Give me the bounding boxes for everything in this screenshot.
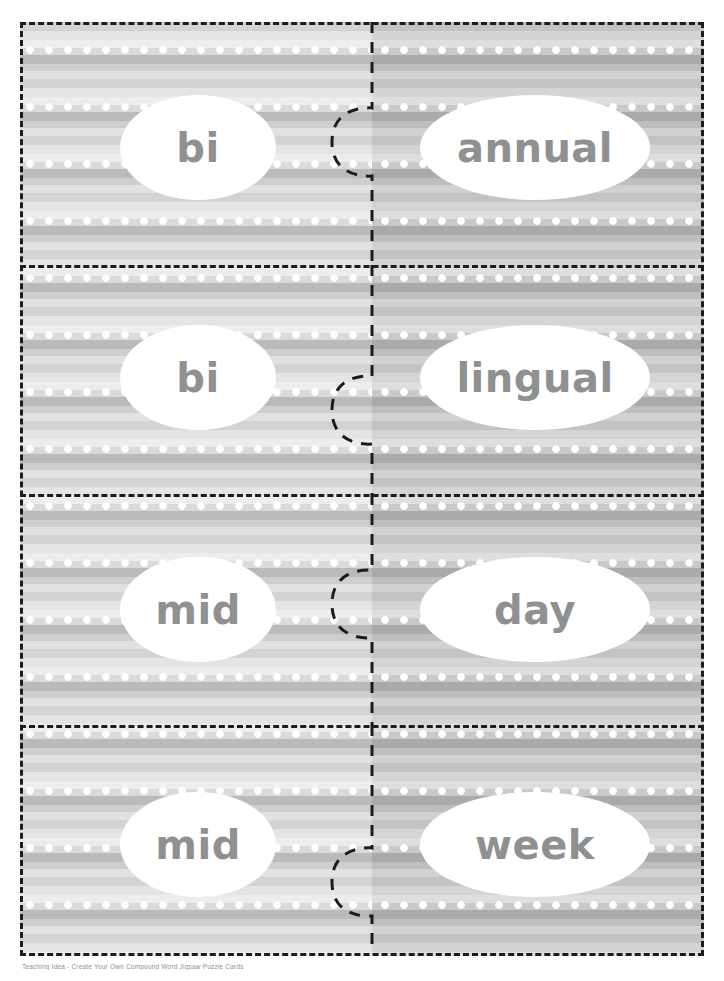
word-label: bi: [176, 128, 219, 168]
cut-line-row-3: [20, 725, 704, 728]
word-label: lingual: [456, 358, 613, 398]
cut-line-row-2: [20, 494, 704, 497]
word-card-mid-2[interactable]: mid: [120, 792, 276, 897]
word-card-bi-1[interactable]: bi: [120, 95, 276, 200]
word-card-annual[interactable]: annual: [420, 95, 650, 200]
word-card-mid-1[interactable]: mid: [120, 557, 276, 662]
word-card-day[interactable]: day: [420, 557, 650, 662]
cut-line-top: [20, 22, 704, 25]
word-card-lingual[interactable]: lingual: [420, 325, 650, 430]
cut-line-bottom: [20, 953, 704, 956]
word-label: day: [494, 590, 576, 630]
word-card-bi-2[interactable]: bi: [120, 325, 276, 430]
word-label: annual: [457, 128, 613, 168]
worksheet-page: bi annual bi lingual mid day mid week Te…: [0, 0, 724, 981]
word-label: week: [475, 825, 595, 865]
cut-line-right: [701, 22, 704, 956]
cut-line-row-1: [20, 265, 704, 268]
cut-line-left: [20, 22, 23, 956]
word-card-week[interactable]: week: [420, 792, 650, 897]
word-label: mid: [155, 825, 241, 865]
word-label: mid: [155, 590, 241, 630]
puzzle-board: bi annual bi lingual mid day mid week: [20, 22, 704, 956]
word-label: bi: [176, 358, 219, 398]
footer-credit: Teaching Idea - Create Your Own Compound…: [22, 963, 712, 970]
